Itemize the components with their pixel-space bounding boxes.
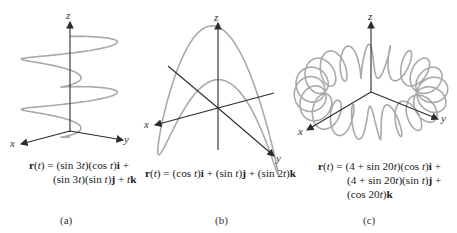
y-axis-b-back <box>168 66 218 108</box>
y-axis-b <box>218 108 274 156</box>
y-axis-label-b: y <box>276 153 281 164</box>
formula-a-line-1: r(t) = (sin 3t)(cos t)i + <box>29 158 136 172</box>
panel-b: z x y r(t) = (cos t)i + (sin t)j + (sin … <box>140 0 300 233</box>
formula-a-line-2: (sin 3t)(sin t)j + tk <box>29 172 136 186</box>
caption-c: (c) <box>363 214 375 226</box>
formula-c-line-2: (4 + sin 20t)(sin t)j + <box>318 173 441 187</box>
formula-b-line-1: r(t) = (cos t)i + (sin t)j + (sin 2t)k <box>145 166 296 180</box>
x-axis-label-a: x <box>10 138 15 149</box>
formula-c-line-3: (cos 20t)k <box>318 187 441 201</box>
z-axis-label-a: z <box>66 10 70 21</box>
caption-a: (a) <box>60 214 72 226</box>
x-axis-label-c: x <box>298 126 303 137</box>
panel-a: z x y r(t) = (sin 3t)(cos t)i + (sin 3t)… <box>0 0 150 233</box>
formula-c-line-1: r(t) = (4 + sin 20t)(cos t)i + <box>318 159 441 173</box>
z-axis-label-c: z <box>368 11 372 22</box>
y-axis-label-a: y <box>124 134 129 145</box>
formula-b: r(t) = (cos t)i + (sin t)j + (sin 2t)k <box>145 166 296 180</box>
y-axis-a <box>70 131 123 140</box>
x-axis-label-b: x <box>144 119 149 130</box>
formula-c: r(t) = (4 + sin 20t)(cos t)i + (4 + sin … <box>318 159 441 201</box>
x-axis-b-back <box>218 93 274 108</box>
caption-b: (b) <box>215 214 228 226</box>
curve-plot-b <box>140 0 300 165</box>
formula-a: r(t) = (sin 3t)(cos t)i + (sin 3t)(sin t… <box>29 158 136 186</box>
y-axis-label-c: y <box>441 113 446 124</box>
panel-c: z x y r(t) = (4 + sin 20t)(cos t)i + (4 … <box>290 0 457 233</box>
curve-plot-c <box>290 0 457 160</box>
y-axis-c <box>371 92 438 119</box>
space-curve-a <box>21 36 117 137</box>
z-axis-label-b: z <box>214 12 218 23</box>
